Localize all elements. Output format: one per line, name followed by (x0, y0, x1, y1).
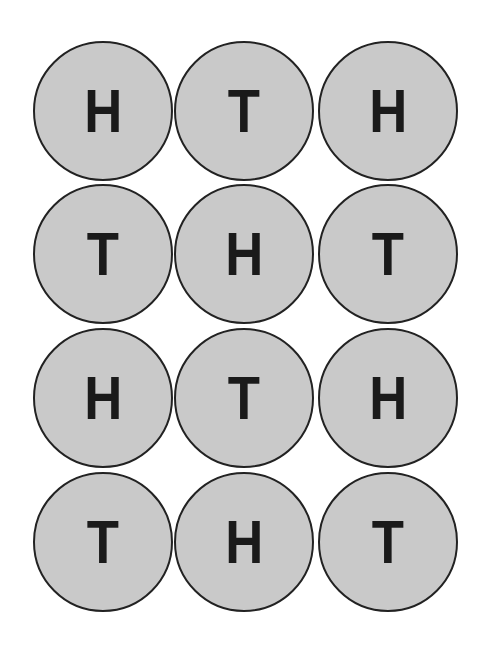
coin: T (33, 184, 173, 324)
coin: T (33, 472, 173, 612)
coin: T (318, 472, 458, 612)
coin-letter: T (87, 511, 119, 573)
coin: H (318, 41, 458, 181)
coin: T (318, 184, 458, 324)
coin: H (33, 328, 173, 468)
coin-letter: T (228, 367, 260, 429)
coin-letter: T (372, 223, 404, 285)
coin-letter: H (369, 80, 407, 142)
coin: T (174, 41, 314, 181)
coin: T (174, 328, 314, 468)
coin: H (174, 184, 314, 324)
coin: H (318, 328, 458, 468)
coin-letter: T (372, 511, 404, 573)
coin-letter: T (87, 223, 119, 285)
coin-letter: T (228, 80, 260, 142)
coin-letter: H (369, 367, 407, 429)
coin-letter: H (84, 367, 122, 429)
coin-letter: H (84, 80, 122, 142)
coin: H (33, 41, 173, 181)
coin-letter: H (225, 223, 263, 285)
coin: H (174, 472, 314, 612)
coin-letter: H (225, 511, 263, 573)
